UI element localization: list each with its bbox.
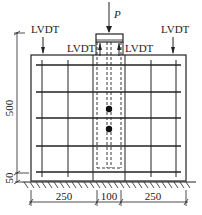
dim-height-main: 500: [3, 99, 15, 116]
lvdt-label-inner-right: LVDT: [125, 42, 154, 54]
test-setup-diagram: P LVDT LVDT LVDT LVDT 500 50 250 100 250: [0, 0, 202, 215]
measurement-point-upper: [106, 106, 112, 112]
lvdt-label-top-left: LVDT: [31, 23, 60, 35]
lvdt-label-inner-left: LVDT: [67, 42, 96, 54]
measurement-point-lower: [106, 126, 112, 132]
dim-width-left: 250: [56, 190, 73, 202]
dim-height-base: 50: [3, 172, 15, 184]
dim-width-right: 250: [145, 190, 162, 202]
loading-plate: [96, 34, 123, 42]
column-dashed-outline: [97, 42, 121, 168]
horizontal-rebars: [36, 65, 181, 172]
vertical-dimension: [14, 31, 29, 184]
lvdt-label-top-right: LVDT: [161, 23, 190, 35]
dim-width-center: 100: [101, 190, 118, 202]
load-label: P: [113, 8, 121, 20]
ground-hatch: [24, 182, 190, 188]
